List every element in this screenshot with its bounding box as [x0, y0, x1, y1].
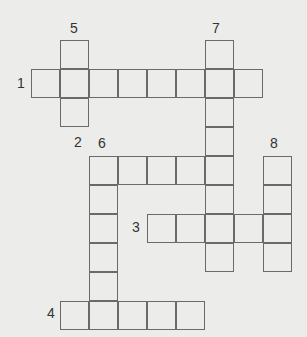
crossword-cell[interactable]	[147, 69, 176, 98]
crossword-cell[interactable]	[205, 69, 234, 98]
crossword-cell[interactable]	[60, 98, 89, 127]
crossword-cell[interactable]	[205, 40, 234, 69]
crossword-cell[interactable]	[60, 301, 89, 330]
crossword-cell[interactable]	[176, 214, 205, 243]
crossword-cell[interactable]	[176, 301, 205, 330]
crossword-cell[interactable]	[263, 185, 292, 214]
crossword-cell[interactable]	[118, 301, 147, 330]
crossword-cell[interactable]	[263, 214, 292, 243]
crossword-cell[interactable]	[89, 301, 118, 330]
crossword-cell[interactable]	[176, 156, 205, 185]
crossword-cell[interactable]	[89, 214, 118, 243]
clue-number-1: 1	[17, 76, 25, 90]
clue-number-8: 8	[270, 136, 278, 150]
crossword-cell[interactable]	[147, 156, 176, 185]
crossword-cell[interactable]	[205, 127, 234, 156]
crossword-cell[interactable]	[205, 185, 234, 214]
clue-number-2: 2	[74, 135, 82, 149]
crossword-cell[interactable]	[31, 69, 60, 98]
clue-number-4: 4	[47, 306, 55, 320]
clue-number-7: 7	[212, 21, 220, 35]
crossword-cell[interactable]	[234, 214, 263, 243]
crossword-cell[interactable]	[89, 156, 118, 185]
crossword-cell[interactable]	[205, 243, 234, 272]
crossword-cell[interactable]	[263, 243, 292, 272]
clue-number-6: 6	[98, 136, 106, 150]
crossword-cell[interactable]	[118, 69, 147, 98]
crossword-cell[interactable]	[60, 69, 89, 98]
crossword-cell[interactable]	[147, 301, 176, 330]
crossword-cell[interactable]	[205, 98, 234, 127]
crossword-cell[interactable]	[263, 156, 292, 185]
crossword-cell[interactable]	[205, 156, 234, 185]
crossword-cell[interactable]	[89, 185, 118, 214]
crossword-cell[interactable]	[234, 69, 263, 98]
crossword-cell[interactable]	[60, 40, 89, 69]
clue-number-3: 3	[132, 220, 140, 234]
crossword-cell[interactable]	[89, 243, 118, 272]
clue-number-5: 5	[70, 21, 78, 35]
crossword-cell[interactable]	[205, 214, 234, 243]
crossword-cell[interactable]	[89, 272, 118, 301]
crossword-cell[interactable]	[176, 69, 205, 98]
crossword-cell[interactable]	[89, 69, 118, 98]
crossword-cell[interactable]	[147, 214, 176, 243]
crossword-cell[interactable]	[118, 156, 147, 185]
